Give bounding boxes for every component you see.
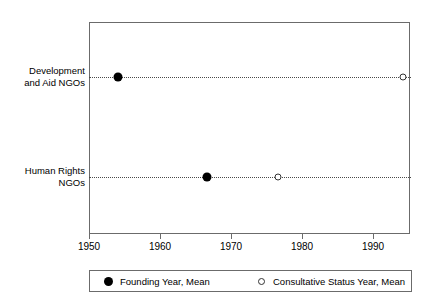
x-axis-tick-1960 <box>160 234 161 239</box>
x-axis-tick-1990 <box>373 234 374 239</box>
category-guide-line-human-rights-ngos <box>89 177 411 178</box>
scatter-chart: Development and Aid NGOs Human Rights NG… <box>0 0 429 302</box>
y-axis-label-human-rights-ngos: Human Rights NGOs <box>0 165 85 188</box>
chart-legend: Founding Year, Mean Consultative Status … <box>89 270 412 292</box>
plot-area-frame <box>89 22 410 234</box>
legend-item-consultative-status-year: Consultative Status Year, Mean <box>257 271 405 291</box>
x-axis-tick-label-1990: 1990 <box>362 241 384 253</box>
x-axis-tick-label-1970: 1970 <box>220 241 242 253</box>
y-axis-label-development-aid-ngos: Development and Aid NGOs <box>0 65 85 88</box>
data-point-consultative-status-year-human-rights-ngos <box>274 174 281 181</box>
data-point-founding-year-human-rights-ngos <box>202 173 211 182</box>
x-axis-tick-label-1950: 1950 <box>78 241 100 253</box>
data-point-consultative-status-year-development-aid-ngos <box>400 74 407 81</box>
legend-label-founding-year: Founding Year, Mean <box>120 276 210 287</box>
x-axis-tick-1970 <box>231 234 232 239</box>
x-axis-tick-label-1960: 1960 <box>149 241 171 253</box>
x-axis-tick-1950 <box>89 234 90 239</box>
category-guide-line-development-aid-ngos <box>89 77 411 78</box>
data-point-founding-year-development-aid-ngos <box>114 73 123 82</box>
open-circle-icon <box>258 278 265 285</box>
x-axis-tick-label-1980: 1980 <box>291 241 313 253</box>
legend-label-consultative-status-year: Consultative Status Year, Mean <box>273 276 405 287</box>
x-axis-tick-1980 <box>302 234 303 239</box>
filled-circle-icon <box>104 277 113 286</box>
legend-item-founding-year: Founding Year, Mean <box>104 271 210 291</box>
